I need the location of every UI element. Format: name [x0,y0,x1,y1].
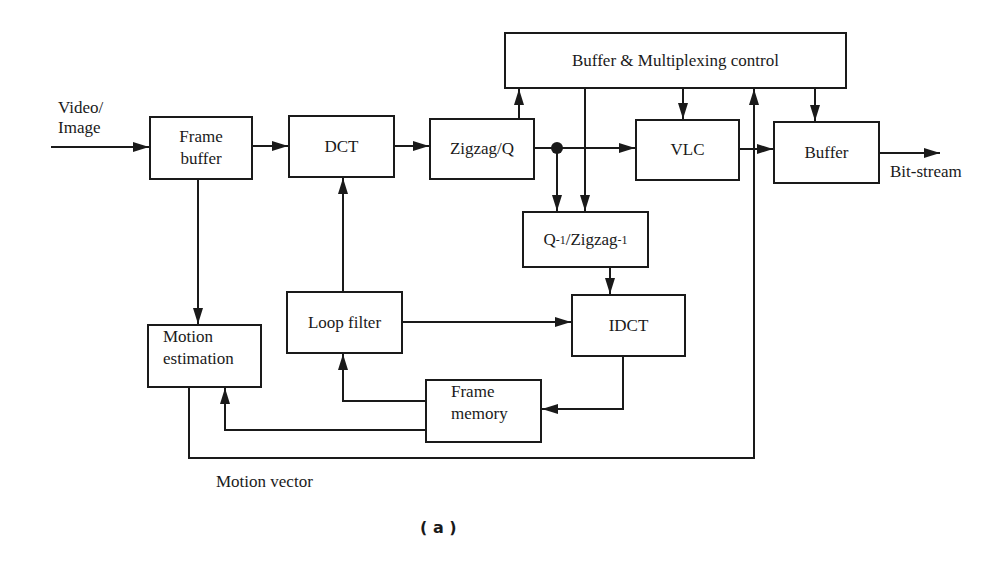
input-label: Video/ Image [58,98,103,138]
motion-vector-label: Motion vector [216,472,313,492]
buffer-mux-control-block: Buffer & Multiplexing control [504,32,847,89]
motion-estimation-block: Motion estimation [147,324,262,388]
zigzag-q-block: Zigzag/Q [429,118,535,180]
frame-memory-block: Frame memory [425,379,542,443]
loop-filter-block: Loop filter [286,291,403,354]
dct-block: DCT [288,115,395,178]
vlc-block: VLC [635,119,740,181]
figure-caption: ( a ) [420,518,457,537]
output-label: Bit-stream [890,162,962,182]
junction-dot [551,142,563,154]
idct-block: IDCT [571,294,686,357]
inverse-q-zigzag-block: Q-1/Zigzag-1 [522,211,649,268]
frame-buffer-block: Frame buffer [149,116,253,180]
buffer-block: Buffer [773,121,880,184]
connection-wires [0,0,1006,573]
